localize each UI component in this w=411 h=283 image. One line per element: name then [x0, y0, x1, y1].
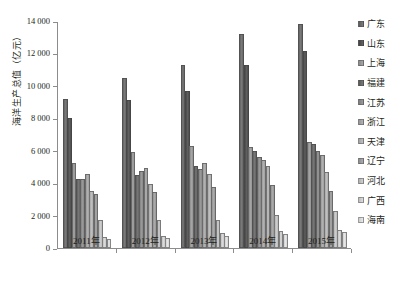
x-axis-category-label: 2014年 — [233, 234, 292, 247]
y-axis-tick-mark — [53, 184, 57, 185]
chart-legend: 广东山东上海福建江苏浙江天津辽宁河北广西海南 — [358, 14, 410, 230]
legend-swatch-icon — [358, 178, 364, 184]
legend-label: 辽宁 — [367, 154, 386, 167]
y-axis-tick-mark — [53, 151, 57, 152]
legend-swatch-icon — [358, 197, 364, 203]
legend-item[interactable]: 山东 — [358, 34, 410, 54]
legend-item[interactable]: 广西 — [358, 190, 410, 210]
legend-label: 河北 — [367, 174, 386, 187]
y-axis-tick-label: 14 000 — [27, 16, 50, 26]
legend-item[interactable]: 河北 — [358, 171, 410, 191]
legend-swatch-icon — [358, 80, 364, 86]
legend-item[interactable]: 上海 — [358, 53, 410, 73]
y-axis-tick: 10 000 — [5, 82, 57, 92]
x-axis-tick-mark — [116, 249, 117, 253]
bar-group — [181, 22, 229, 248]
legend-swatch-icon — [358, 60, 364, 66]
y-axis-tick-label: 6 000 — [31, 146, 50, 156]
y-axis-tick-label: 8 000 — [31, 113, 50, 123]
y-axis-tick: 4 000 — [5, 179, 57, 189]
y-axis-tick-label: 4 000 — [31, 178, 50, 188]
bar-chart-figure: 海洋生产总值（亿元） 14 00012 00010 0008 0006 0004… — [0, 0, 411, 283]
y-axis-line — [57, 22, 58, 249]
x-axis-tick-mark — [233, 249, 234, 253]
legend-label: 浙江 — [367, 115, 386, 128]
legend-swatch-icon — [358, 40, 364, 46]
x-axis-category-label: 2013年 — [175, 234, 234, 247]
y-axis-tick: 14 000 — [5, 17, 57, 27]
y-axis-tick: 2 000 — [5, 212, 57, 222]
legend-item[interactable]: 江苏 — [358, 92, 410, 112]
y-axis-tick: 8 000 — [5, 114, 57, 124]
y-axis-tick-label: 2 000 — [31, 211, 50, 221]
legend-label: 福建 — [367, 76, 386, 89]
y-axis-tick-mark — [53, 22, 57, 23]
y-axis-title: 海洋生产总值（亿元） — [10, 9, 23, 149]
y-axis-tick-mark — [53, 216, 57, 217]
y-axis-tick-label: 12 000 — [27, 48, 50, 58]
y-axis-tick-mark — [53, 86, 57, 87]
y-axis-tick-mark — [53, 54, 57, 55]
x-axis-category-label: 2015年 — [292, 234, 351, 247]
legend-swatch-icon — [358, 119, 364, 125]
legend-swatch-icon — [358, 217, 364, 223]
x-axis-tick-mark — [292, 249, 293, 253]
y-axis-tick-label: 10 000 — [27, 81, 50, 91]
bar-group — [239, 22, 287, 248]
x-axis-category-label: 2011年 — [57, 234, 116, 247]
y-axis-tick: 6 000 — [5, 147, 57, 157]
legend-label: 山东 — [367, 37, 386, 50]
plot-area: 14 00012 00010 0008 0006 0004 0002 0000 — [57, 22, 351, 249]
legend-item[interactable]: 广东 — [358, 14, 410, 34]
y-axis-tick-label: 0 — [46, 243, 50, 253]
bar-group — [298, 22, 346, 248]
x-axis-tick-mark — [351, 249, 352, 253]
legend-swatch-icon — [358, 21, 364, 27]
legend-label: 上海 — [367, 56, 386, 69]
x-axis-line — [57, 248, 351, 249]
x-axis-tick-mark — [175, 249, 176, 253]
bar-group — [63, 22, 111, 248]
legend-swatch-icon — [358, 158, 364, 164]
x-axis-category-label: 2012年 — [116, 234, 175, 247]
legend-item[interactable]: 辽宁 — [358, 151, 410, 171]
y-axis-tick-mark — [53, 249, 57, 250]
legend-item[interactable]: 福建 — [358, 73, 410, 93]
y-axis-tick: 0 — [5, 244, 57, 254]
legend-label: 江苏 — [367, 96, 386, 109]
legend-label: 天津 — [367, 135, 386, 148]
legend-label: 广西 — [367, 194, 386, 207]
legend-swatch-icon — [358, 99, 364, 105]
bar-group — [122, 22, 170, 248]
legend-item[interactable]: 海南 — [358, 210, 410, 230]
legend-item[interactable]: 天津 — [358, 132, 410, 152]
legend-swatch-icon — [358, 138, 364, 144]
legend-item[interactable]: 浙江 — [358, 112, 410, 132]
y-axis-tick: 12 000 — [5, 49, 57, 59]
legend-label: 海南 — [367, 213, 386, 226]
y-axis-tick-mark — [53, 119, 57, 120]
legend-label: 广东 — [367, 17, 386, 30]
